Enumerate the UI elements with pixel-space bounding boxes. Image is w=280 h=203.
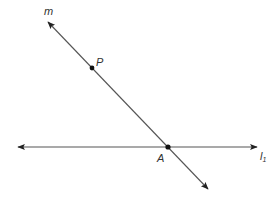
point-p: [90, 66, 95, 71]
label-a: A: [156, 152, 164, 164]
label-m: m: [44, 5, 53, 17]
label-p: P: [96, 56, 104, 68]
geometry-diagram: m P A l1: [0, 0, 280, 203]
label-l1-subscript: 1: [262, 156, 266, 163]
label-l1: l1: [260, 150, 266, 163]
point-a: [165, 144, 170, 149]
line-m: [48, 22, 208, 189]
